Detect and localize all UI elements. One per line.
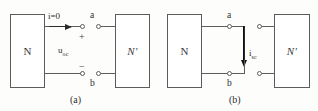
panel-a-terminal-label-a: a: [90, 11, 94, 21]
panel-a-terminal-node-a: [80, 24, 85, 29]
panel-b-short-bottom-segment: [232, 73, 244, 74]
panel-a-voltage-subscript: oc: [63, 51, 69, 57]
panel-b-current-label: isc: [249, 49, 257, 60]
panel-a-network-nprime-label: N′: [127, 45, 137, 57]
panel-a-top-lead-right: [101, 26, 116, 27]
panel-b-terminal-label-b: b: [227, 79, 232, 89]
panel-b-caption-text: (b): [229, 94, 241, 105]
panel-a: N N′ i=0 a b + −: [0, 0, 159, 111]
panel-a-caption: (a): [70, 95, 81, 105]
panel-b-bottom-lead-left: [202, 73, 228, 74]
panel-b: N N′ a b isc (b: [159, 0, 318, 111]
panel-a-bottom-lead-left: [45, 73, 81, 74]
panel-a-current-arrow-icon: [49, 26, 71, 27]
panel-b-network-n-label: N: [180, 45, 188, 57]
panel-a-network-nprime: N′: [115, 14, 150, 88]
panel-a-polarity-minus-text: −: [79, 61, 85, 72]
panel-b-top-lead-left: [202, 26, 228, 27]
panel-b-terminal-label-a: a: [227, 11, 231, 21]
panel-a-voltage-label: uoc: [58, 46, 69, 57]
panel-a-network-n: N: [10, 14, 45, 88]
panel-a-bottom-lead-right: [101, 73, 116, 74]
circuit-diagram-figure: N N′ i=0 a b + −: [0, 0, 318, 111]
panel-a-current-value: =0: [51, 11, 61, 21]
panel-a-terminal-b-text: b: [90, 78, 95, 88]
panel-a-terminal-a-text: a: [90, 10, 94, 20]
panel-b-bottom-lead-right: [262, 73, 275, 74]
panel-a-polarity-plus: +: [79, 32, 85, 42]
panel-b-caption: (b): [229, 95, 241, 105]
panel-a-terminal-label-b: b: [90, 79, 95, 89]
panel-b-top-lead-right: [262, 26, 275, 27]
panel-b-network-n: N: [167, 14, 202, 88]
panel-b-terminal-a-text: a: [227, 10, 231, 20]
panel-a-polarity-plus-text: +: [79, 31, 85, 42]
panel-b-current-subscript: sc: [252, 54, 257, 60]
panel-a-polarity-minus: −: [79, 62, 85, 72]
panel-b-terminal-b-text: b: [227, 78, 232, 88]
panel-a-network-n-label: N: [23, 45, 31, 57]
panel-a-caption-text: (a): [70, 94, 81, 105]
panel-b-network-nprime: N′: [274, 14, 310, 88]
panel-b-current-arrow-icon: [244, 26, 245, 60]
panel-b-network-nprime-label: N′: [287, 45, 297, 57]
panel-b-short-lower-return: [244, 60, 245, 74]
panel-a-current-label: i=0: [48, 12, 60, 21]
